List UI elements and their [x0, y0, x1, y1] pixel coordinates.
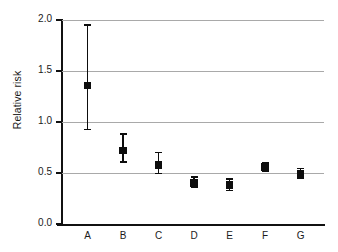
plot-area — [62, 20, 324, 224]
marker — [84, 82, 92, 90]
y-tick-mark — [56, 19, 62, 20]
y-tick-label: 0.5 — [18, 166, 52, 177]
y-tick-mark — [56, 223, 62, 224]
y-tick-label: 0.0 — [18, 217, 52, 228]
y-tick-mark — [56, 70, 62, 71]
errorbar-cap-upper — [297, 168, 304, 170]
errorbar-cap-upper — [226, 178, 233, 180]
errorbar-line — [87, 24, 88, 130]
marker — [297, 170, 305, 178]
marker — [190, 179, 198, 187]
errorbar-cap-lower — [191, 187, 198, 189]
gridline — [62, 122, 324, 123]
marker — [155, 161, 163, 169]
x-tick-label-d: D — [179, 230, 209, 241]
y-tick-label: 2.0 — [18, 13, 52, 24]
errorbar-cap-upper — [84, 24, 91, 26]
x-tick-label-a: A — [73, 230, 103, 241]
relative-risk-chart: Relative risk 0.00.51.01.52.0 ABCDEFG — [0, 0, 338, 252]
errorbar-cap-lower — [155, 173, 162, 175]
errorbar-cap-lower — [84, 129, 91, 131]
gridline — [62, 173, 324, 174]
gridline — [62, 71, 324, 72]
x-tick-label-f: F — [250, 230, 280, 241]
y-tick-label: 1.0 — [18, 115, 52, 126]
x-tick-label-g: G — [286, 230, 316, 241]
y-tick-label: 1.5 — [18, 64, 52, 75]
marker — [119, 147, 127, 155]
errorbar-cap-lower — [120, 161, 127, 163]
errorbar-cap-upper — [155, 152, 162, 154]
y-tick-mark — [56, 172, 62, 173]
x-tick-label-e: E — [215, 230, 245, 241]
gridline — [62, 20, 324, 21]
marker — [226, 181, 234, 189]
x-axis-line — [57, 224, 325, 226]
errorbar-cap-lower — [297, 178, 304, 180]
x-tick-label-c: C — [144, 230, 174, 241]
y-tick-mark — [56, 121, 62, 122]
errorbar-cap-lower — [262, 170, 269, 172]
errorbar-cap-lower — [226, 190, 233, 192]
x-tick-label-b: B — [108, 230, 138, 241]
errorbar-cap-upper — [191, 176, 198, 178]
errorbar-cap-upper — [120, 133, 127, 135]
marker — [261, 163, 269, 171]
